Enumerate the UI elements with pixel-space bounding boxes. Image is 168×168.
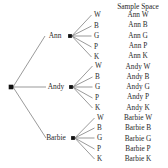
- leaf-label-ann-w: W: [94, 11, 101, 19]
- sample-space-row: Ann K: [108, 52, 168, 60]
- sample-space-row: Andy P: [108, 93, 168, 101]
- leaf-label-barbie-w: W: [97, 114, 104, 122]
- sample-space-row: Ann G: [108, 32, 168, 40]
- sample-space-row: Barbie B: [108, 124, 168, 132]
- leaf-label-ann-k: K: [94, 53, 99, 61]
- leaf-label-ann-b: B: [94, 22, 99, 30]
- branch-barbie-w: [75, 118, 95, 138]
- branch-ann-k: [72, 36, 92, 57]
- branch-barbie-k: [75, 138, 95, 159]
- sample-space-row: Barbie K: [108, 155, 168, 163]
- branch-andy-k: [73, 87, 93, 108]
- sample-space-row: Andy W: [108, 63, 168, 71]
- branch-andy-b: [73, 77, 93, 87]
- sample-space-row: Andy G: [108, 83, 168, 91]
- node-label-andy: Andy: [48, 83, 64, 91]
- node-ann: [68, 34, 72, 38]
- sample-space-row: Ann B: [108, 21, 168, 29]
- sample-space-row: Ann W: [108, 11, 168, 19]
- leaf-label-barbie-k: K: [97, 155, 102, 163]
- node-andy: [69, 85, 73, 89]
- sample-space-row: Barbie G: [108, 135, 168, 143]
- root-node: [9, 85, 14, 90]
- branch-andy-p: [73, 87, 93, 98]
- sample-space-row: Andy K: [108, 104, 168, 112]
- sample-space-row: Barbie W: [108, 114, 168, 122]
- leaf-label-ann-g: G: [94, 32, 99, 40]
- branch-root-to-barbie: [13, 87, 46, 138]
- leaf-label-barbie-b: B: [97, 124, 102, 132]
- sample-space-row: Ann P: [108, 42, 168, 50]
- sample-space-row: Barbie P: [108, 145, 168, 153]
- branch-barbie-b: [75, 128, 95, 138]
- leaf-label-barbie-g: G: [97, 134, 102, 142]
- branch-ann-p: [72, 36, 92, 47]
- sample-space-row: Andy B: [108, 73, 168, 81]
- leaf-label-andy-p: P: [95, 94, 99, 102]
- leaf-label-ann-p: P: [94, 43, 98, 51]
- branch-ann-w: [72, 15, 92, 36]
- sample-space-column: Sample Space Ann WAnn BAnn GAnn PAnn KAn…: [108, 0, 168, 168]
- leaf-label-andy-k: K: [95, 104, 100, 112]
- leaf-label-andy-g: G: [95, 83, 100, 91]
- leaf-label-barbie-p: P: [97, 145, 101, 153]
- branch-barbie-p: [75, 138, 95, 149]
- branch-root-to-ann: [13, 36, 45, 87]
- node-label-barbie: Barbie: [46, 134, 66, 142]
- branch-andy-w: [73, 66, 93, 87]
- node-label-ann: Ann: [49, 32, 62, 40]
- node-barbie: [71, 136, 75, 140]
- tree-diagram-figure: AnnAndyBarbie WBGPKWBGPKWBGPK Sample Spa…: [0, 0, 168, 168]
- leaf-label-andy-w: W: [95, 62, 102, 70]
- leaf-label-andy-b: B: [95, 73, 100, 81]
- branch-ann-b: [72, 26, 92, 36]
